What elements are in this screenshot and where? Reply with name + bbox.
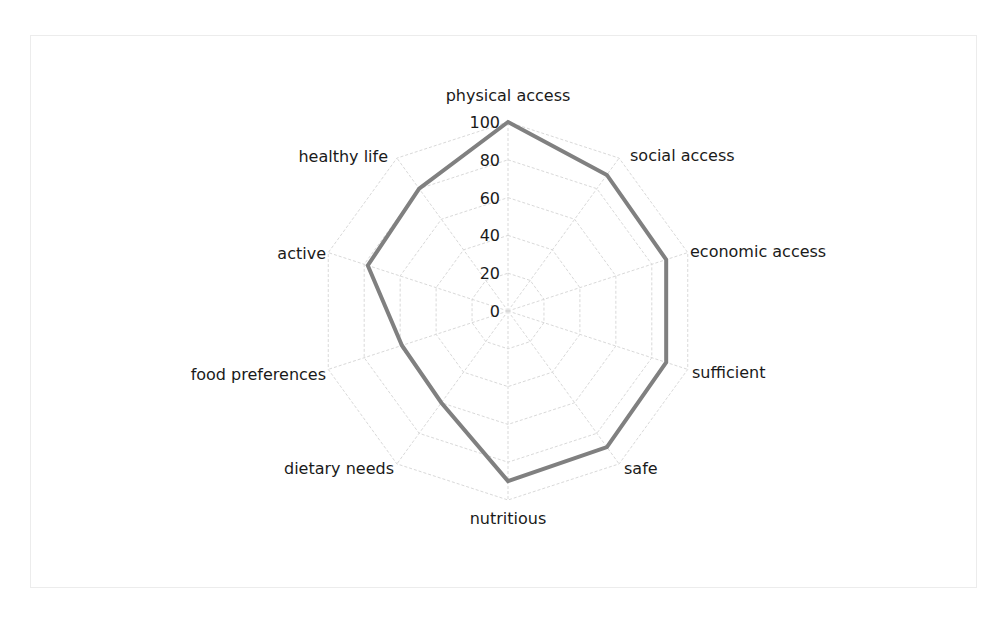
grid-spoke <box>328 311 508 369</box>
radar-chart: 020406080100 physical accesssocial acces… <box>0 0 1004 624</box>
axis-label-safe: safe <box>624 459 658 478</box>
tick-label: 0 <box>490 302 500 321</box>
grid-spoke <box>397 311 508 464</box>
axis-label-physical-access: physical access <box>446 86 571 105</box>
axis-label-nutritious: nutritious <box>470 509 547 528</box>
tick-label: 100 <box>469 113 500 132</box>
tick-label: 40 <box>480 226 500 245</box>
radial-tick-labels: 020406080100 <box>469 113 500 321</box>
axis-label-social-access: social access <box>630 146 735 165</box>
axis-label-economic-access: economic access <box>690 242 826 261</box>
axis-label-sufficient: sufficient <box>692 363 765 382</box>
tick-label: 60 <box>480 189 500 208</box>
grid-spoke <box>508 311 688 369</box>
series-line <box>368 122 666 481</box>
axis-label-food-preferences: food preferences <box>191 365 326 384</box>
grid-spoke <box>508 158 619 311</box>
axis-label-dietary-needs: dietary needs <box>284 459 394 478</box>
grid-spoke <box>508 311 619 464</box>
tick-label: 80 <box>480 151 500 170</box>
radar-grid <box>328 122 687 500</box>
axis-label-healthy-life: healthy life <box>298 147 388 166</box>
grid-spoke <box>508 253 688 311</box>
axis-label-active: active <box>277 244 326 263</box>
tick-label: 20 <box>480 264 500 283</box>
data-series <box>368 122 666 481</box>
